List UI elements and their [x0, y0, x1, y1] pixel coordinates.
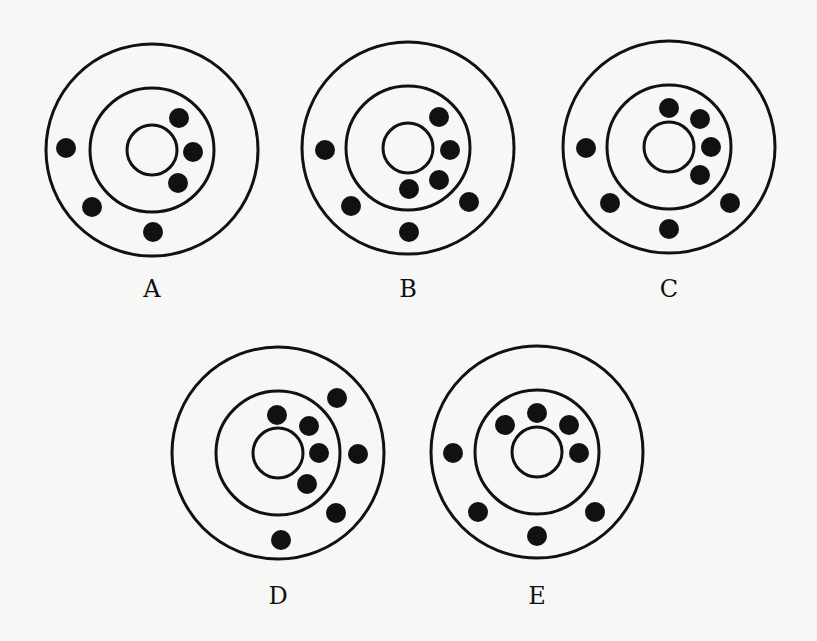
- electron-dot: [701, 137, 721, 157]
- inner-shell: [383, 123, 433, 173]
- inner-shell: [127, 125, 177, 175]
- diagram-label-d: D: [268, 582, 287, 610]
- electron-dot: [468, 502, 488, 522]
- electron-dot: [429, 170, 449, 190]
- electron-dot: [585, 502, 605, 522]
- electron-dot: [399, 222, 419, 242]
- atom-diagram-a: [46, 44, 258, 256]
- diagram-label-c: C: [660, 275, 678, 303]
- electron-dot: [326, 503, 346, 523]
- atom-diagram-b: [302, 42, 514, 254]
- electron-dot: [267, 405, 287, 425]
- electron-dot: [659, 219, 679, 239]
- electron-dot: [168, 173, 188, 193]
- diagram-label-b: B: [399, 275, 417, 303]
- inner-shell: [253, 428, 303, 478]
- electron-dot: [315, 140, 335, 160]
- inner-shell: [512, 427, 562, 477]
- electron-dot: [559, 415, 579, 435]
- electron-dot: [495, 415, 515, 435]
- electron-dot: [527, 403, 547, 423]
- electron-dot: [527, 526, 547, 546]
- electron-dot: [56, 138, 76, 158]
- electron-dot: [82, 197, 102, 217]
- electron-dot: [327, 388, 347, 408]
- electron-dot: [348, 444, 368, 464]
- electron-dot: [429, 107, 449, 127]
- atom-diagram-c: [563, 41, 775, 253]
- electron-dot: [341, 196, 361, 216]
- inner-shell: [644, 122, 694, 172]
- electron-dot: [569, 443, 589, 463]
- electron-dot: [600, 193, 620, 213]
- diagram-label-a: A: [143, 275, 160, 303]
- electron-dot: [309, 443, 329, 463]
- electron-dot: [271, 530, 291, 550]
- electron-dot: [440, 140, 460, 160]
- electron-dot: [720, 193, 740, 213]
- atom-diagram-e: [431, 346, 643, 558]
- electron-dot: [169, 108, 189, 128]
- electron-dot: [576, 138, 596, 158]
- diagram-label-e: E: [528, 582, 546, 610]
- atom-diagrams: [0, 0, 817, 641]
- electron-dot: [459, 192, 479, 212]
- electron-dot: [297, 474, 317, 494]
- atom-diagram-d: [172, 347, 384, 559]
- electron-dot: [690, 165, 710, 185]
- electron-dot: [690, 109, 710, 129]
- electron-dot: [143, 222, 163, 242]
- electron-dot: [443, 443, 463, 463]
- electron-dot: [299, 416, 319, 436]
- electron-dot: [659, 98, 679, 118]
- electron-dot: [183, 142, 203, 162]
- electron-dot: [399, 179, 419, 199]
